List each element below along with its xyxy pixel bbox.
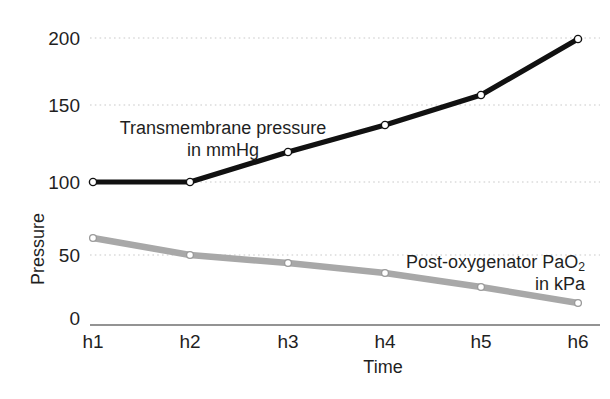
x-tick-label-h5: h5 — [451, 331, 511, 353]
y-tick-label-150: 150 — [22, 95, 80, 117]
x-tick-label-h6: h6 — [548, 331, 608, 353]
x-tick-label-h4: h4 — [355, 331, 415, 353]
x-axis-title: Time — [353, 357, 413, 378]
y-tick-label-200: 200 — [22, 28, 80, 50]
chart-container: 200 150 100 50 0 h1 h2 h3 h4 h5 h6 Press… — [0, 0, 610, 399]
data-point — [381, 121, 388, 128]
annotation-transmembrane-pressure: Transmembrane pressure in mmHg — [103, 118, 343, 162]
y-tick-label-0: 0 — [22, 308, 80, 330]
x-tick-label-h2: h2 — [160, 331, 220, 353]
x-tick-label-h1: h1 — [63, 331, 123, 353]
x-tick-label-h3: h3 — [258, 331, 318, 353]
data-point — [285, 260, 292, 267]
y-axis-title: Pressure — [28, 213, 49, 285]
annotation-pao2-line1: Post-oxygenator PaO2 — [406, 252, 585, 272]
series-transmembrane-markers — [89, 35, 581, 185]
data-point — [574, 35, 581, 42]
annotation-post-oxygenator-pao2: Post-oxygenator PaO2 in kPa — [345, 252, 585, 296]
annotation-transmembrane-line2: in mmHg — [103, 140, 343, 162]
annotation-pao2-line1-text: Post-oxygenator PaO — [406, 252, 578, 272]
annotation-transmembrane-line1: Transmembrane pressure — [120, 118, 326, 138]
data-point — [90, 235, 97, 242]
annotation-pao2-subscript: 2 — [578, 260, 585, 274]
data-point — [575, 300, 582, 307]
data-point — [186, 178, 193, 185]
y-tick-label-100: 100 — [22, 172, 80, 194]
series-transmembrane-pressure — [89, 35, 581, 185]
data-point — [477, 91, 484, 98]
data-point — [187, 252, 194, 259]
annotation-pao2-line2: in kPa — [345, 274, 585, 296]
data-point — [89, 178, 96, 185]
